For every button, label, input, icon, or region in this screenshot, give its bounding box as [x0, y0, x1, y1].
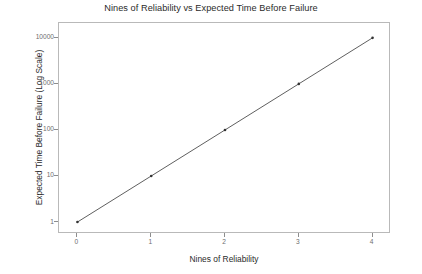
- x-tick-mark: [150, 233, 151, 237]
- x-tick-label: 3: [287, 238, 309, 246]
- y-tick-mark: [54, 175, 58, 176]
- plot-svg: [59, 23, 391, 234]
- data-point-marker: [371, 37, 374, 40]
- x-tick-label: 2: [213, 238, 235, 246]
- data-point-marker: [150, 175, 153, 178]
- y-tick-mark: [54, 37, 58, 38]
- x-tick-mark: [298, 233, 299, 237]
- x-tick-mark: [372, 233, 373, 237]
- x-tick-mark: [224, 233, 225, 237]
- y-tick-mark: [54, 129, 58, 130]
- x-tick-label: 4: [361, 238, 383, 246]
- y-tick-mark: [54, 83, 58, 84]
- x-tick-label: 0: [65, 238, 87, 246]
- plot-panel: [58, 22, 390, 233]
- chart-figure: Nines of Reliability vs Expected Time Be…: [0, 0, 422, 274]
- data-point-marker: [224, 129, 227, 132]
- x-tick-mark: [76, 233, 77, 237]
- x-tick-label: 1: [139, 238, 161, 246]
- data-point-marker: [297, 83, 300, 86]
- data-point-marker: [76, 221, 79, 224]
- y-tick-mark: [54, 221, 58, 222]
